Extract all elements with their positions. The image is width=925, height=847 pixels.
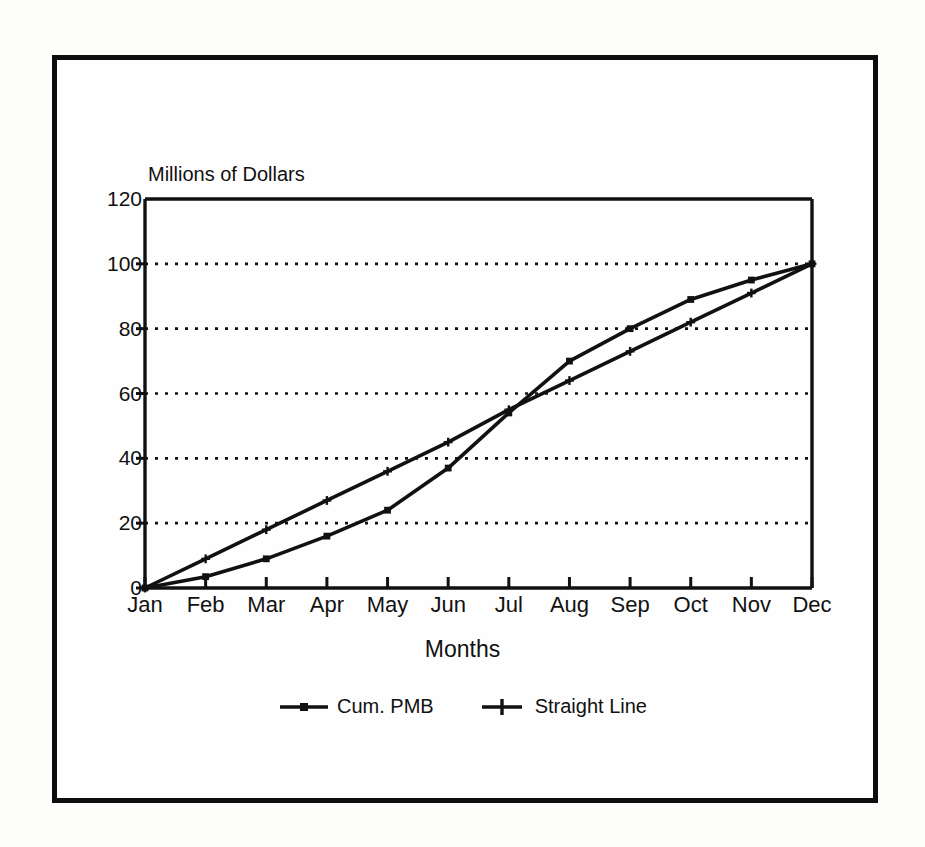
- data-point-marker: [687, 296, 694, 303]
- data-point-marker: [445, 465, 452, 472]
- legend-item-1[interactable]: Cum. PMB: [278, 695, 434, 718]
- data-point-marker: [324, 533, 331, 540]
- legend-item-label: Straight Line: [535, 695, 647, 718]
- x-axis-title: Months: [0, 636, 925, 663]
- data-point-marker: [202, 573, 209, 580]
- chart-page: Millions of Dollars 020406080100120 JanF…: [0, 0, 925, 847]
- plus-marker-icon: [476, 697, 528, 717]
- legend-marker: [300, 703, 308, 711]
- chart-legend: Cum. PMBStraight Line: [0, 695, 925, 718]
- data-point-marker: [748, 277, 755, 284]
- data-point-marker: [263, 555, 270, 562]
- plot-area: [0, 0, 925, 847]
- legend-item-2[interactable]: Straight Line: [476, 695, 647, 718]
- data-point-marker: [627, 325, 634, 332]
- legend-item-label: Cum. PMB: [337, 695, 434, 718]
- square-marker-icon: [278, 697, 330, 717]
- data-point-marker: [384, 507, 391, 514]
- series-line-2: [145, 264, 812, 588]
- data-point-marker: [566, 358, 573, 365]
